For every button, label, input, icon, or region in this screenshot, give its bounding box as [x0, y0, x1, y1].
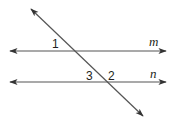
angle-1-label: 1: [52, 37, 59, 51]
parallel-lines-diagram: 1 3 2 m n: [0, 0, 176, 123]
transversal-line: [31, 9, 143, 116]
angle-2-label: 2: [108, 69, 115, 83]
angle-3-label: 3: [86, 69, 93, 83]
line-n-label: n: [150, 66, 157, 81]
line-m-label: m: [149, 34, 158, 49]
